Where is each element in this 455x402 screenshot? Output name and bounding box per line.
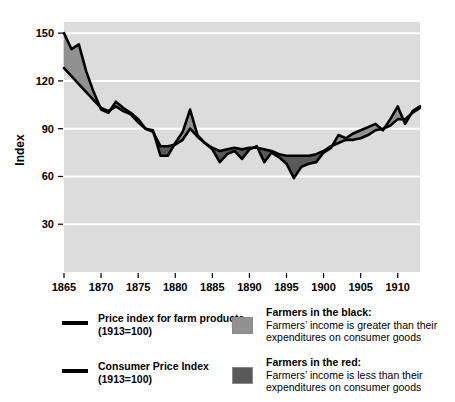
legend-item-label: Consumer Price Index (1913=100): [98, 360, 242, 386]
y-axis-tick-label: 60: [42, 170, 54, 182]
legend-item-label: Farmers in the red: Farmers’ income is l…: [266, 356, 450, 394]
x-axis-tick-label: 1875: [126, 281, 150, 293]
chart-figure: 1865187018751880188518901895190019051910…: [0, 0, 455, 300]
legend-desc-line-1: Farmers’ income is greater than their: [266, 319, 450, 332]
legend-fill-description: Farmers’ income is greater than their ex…: [266, 319, 450, 344]
legend-item-farmers-in-the-red: Farmers in the red: Farmers’ income is l…: [232, 356, 450, 398]
x-axis-tick-label: 1890: [237, 281, 261, 293]
legend-line-2: (1913=100): [98, 373, 242, 386]
legend-line-2: (1913=100): [98, 325, 242, 338]
legend-fill-title: Farmers in the red:: [266, 356, 450, 369]
legend-item-consumer-price-index: Consumer Price Index (1913=100): [62, 360, 242, 394]
y-axis-tick-label: 90: [42, 123, 54, 135]
x-axis-tick-label: 1900: [311, 281, 335, 293]
legend-item-farm-price-index: Price index for farm products (1913=100): [62, 312, 242, 346]
y-axis-tick-label: 120: [36, 75, 54, 87]
legend-line-1: Price index for farm products: [98, 312, 242, 325]
y-axis-title: Index: [13, 134, 27, 166]
legend-item-farmers-in-the-black: Farmers in the black: Farmers’ income is…: [232, 306, 450, 348]
x-axis-tick-label: 1885: [200, 281, 224, 293]
chart-legend: Price index for farm products (1913=100)…: [0, 300, 455, 402]
black-line-swatch: [62, 321, 88, 325]
legend-column-fills: Farmers in the black: Farmers’ income is…: [232, 306, 450, 402]
x-axis-tick-label: 1895: [274, 281, 298, 293]
x-axis-tick-label: 1870: [89, 281, 113, 293]
legend-fill-title: Farmers in the black:: [266, 306, 450, 319]
y-axis-tick-label: 30: [42, 218, 54, 230]
x-axis-tick-label: 1880: [163, 281, 187, 293]
plot-background: [64, 22, 420, 272]
legend-column-lines: Price index for farm products (1913=100)…: [62, 312, 242, 402]
legend-line-1: Consumer Price Index: [98, 360, 242, 373]
light-gray-swatch: [232, 317, 253, 334]
x-axis-tick-label: 1905: [348, 281, 372, 293]
x-axis-tick-label: 1910: [386, 281, 410, 293]
legend-fill-description: Farmers’ income is less than their expen…: [266, 369, 450, 394]
black-line-swatch: [62, 369, 88, 373]
legend-desc-line-1: Farmers’ income is less than their: [266, 369, 450, 382]
legend-desc-line-2: expenditures on consumer goods: [266, 381, 450, 394]
y-axis-tick-label: 150: [36, 27, 54, 39]
dark-gray-swatch: [232, 367, 253, 384]
legend-desc-line-2: expenditures on consumer goods: [266, 331, 450, 344]
legend-item-label: Price index for farm products (1913=100): [98, 312, 242, 338]
x-axis-tick-label: 1865: [52, 281, 76, 293]
y-axis-ticks: 306090120150: [36, 27, 63, 230]
legend-item-label: Farmers in the black: Farmers’ income is…: [266, 306, 450, 344]
x-axis-ticks: 1865187018751880188518901895190019051910: [52, 273, 410, 293]
chart-plot: 1865187018751880188518901895190019051910…: [0, 0, 455, 300]
